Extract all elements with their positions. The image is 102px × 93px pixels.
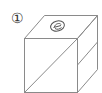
circled-e-symbol-icon [49,19,65,32]
front-face-diagonal [25,39,78,93]
cube-diagram [0,0,102,93]
right-face-diagonal [78,42,98,65]
cube-top-face [25,16,98,39]
